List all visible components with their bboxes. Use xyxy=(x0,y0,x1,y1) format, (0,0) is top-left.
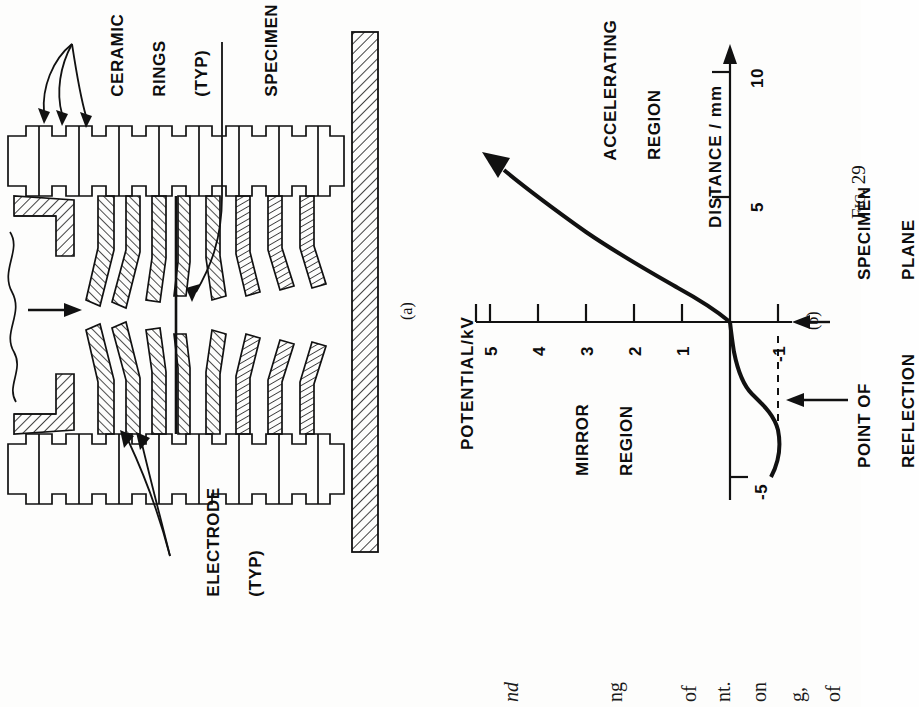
page-text-fragment-on: on xyxy=(748,682,771,702)
ceramic-ring-stack-bottom xyxy=(8,434,344,504)
page-text-fragment-nd: nd xyxy=(500,682,523,702)
point-of-reflection-line2: REFLECTION xyxy=(899,353,918,468)
beam-direction-arrow xyxy=(28,303,82,317)
axis-title-distance: DISTANCE / mm xyxy=(706,85,726,228)
specimen-leader-head xyxy=(186,284,200,302)
panel-b-potential-plot: POTENTIAL/kV 5 4 3 2 1 -1 DISTANCE / mm … xyxy=(400,0,861,620)
beam-entrance-break xyxy=(8,216,56,414)
label-specimen: SPECIMEN xyxy=(240,4,303,128)
page-text-fragment-g: g, xyxy=(786,687,809,702)
potential-axis xyxy=(476,304,792,322)
figure-caption-rest: . 29 xyxy=(848,165,869,194)
curve-arrowhead xyxy=(482,152,510,178)
accelerating-region-line1: ACCELERATING xyxy=(601,20,620,161)
figure-caption-prefix: F xyxy=(848,208,869,219)
page-text-fragment-nt: nt. xyxy=(712,681,735,702)
xtick-label-10: 10 xyxy=(748,68,768,88)
page-text-fragment-of-2: of xyxy=(822,685,845,702)
mirror-region-line2: REGION xyxy=(617,405,636,476)
point-of-reflection-line1: POINT OF xyxy=(855,383,874,468)
ceramic-rings-line3: (TYP) xyxy=(192,50,211,97)
electrode-bank-lower xyxy=(14,322,326,434)
ceramic-rings-line2: RINGS xyxy=(150,40,169,96)
distance-axis-arrowhead xyxy=(723,44,737,64)
point-of-reflection-arrowhead xyxy=(786,393,804,407)
mirror-region-line1: MIRROR xyxy=(573,404,592,477)
specimen-plane-line2: PLANE xyxy=(899,219,918,280)
specimen-text: SPECIMEN xyxy=(262,4,281,97)
ytick-label-1: 1 xyxy=(674,346,694,356)
electrode-line2: (TYP) xyxy=(246,550,265,597)
xtick-label-5: 5 xyxy=(748,202,768,212)
page-text-fragment-of-1: of xyxy=(678,685,701,702)
ytick-label-minus1: -1 xyxy=(770,346,790,362)
electrode-leader xyxy=(128,440,170,556)
annotation-point-of-reflection: POINT OF REFLECTION xyxy=(832,353,919,500)
ytick-label-4: 4 xyxy=(530,346,550,356)
label-electrode: ELECTRODE (TYP) xyxy=(182,487,287,628)
accelerating-region-line2: REGION xyxy=(645,89,664,160)
annotation-mirror-region: MIRROR REGION xyxy=(550,404,660,509)
electrode-line1: ELECTRODE xyxy=(204,487,223,596)
ceramic-ring-stack-top xyxy=(8,126,344,196)
ytick-label-3: 3 xyxy=(578,346,598,356)
page-text-fragment-ng: ng xyxy=(604,682,627,702)
electrode-bank-upper xyxy=(14,196,326,308)
figure-caption: FIG. 29 xyxy=(826,165,892,238)
ytick-label-2: 2 xyxy=(626,346,646,356)
axis-title-potential: POTENTIAL/kV xyxy=(458,316,478,450)
curve-accelerating-region xyxy=(504,170,730,322)
ceramic-rings-leader xyxy=(44,44,86,116)
annotation-accelerating-region: ACCELERATING REGION xyxy=(578,20,688,192)
ceramic-rings-line1: CERAMIC xyxy=(108,14,127,97)
panel-a-apparatus-diagram: CERAMIC RINGS (TYP) SPECIMEN ELECTRODE (… xyxy=(0,0,400,620)
xtick-label-minus5: -5 xyxy=(752,484,772,500)
panel-b-caption: (b) xyxy=(804,311,822,330)
ytick-label-5: 5 xyxy=(482,346,502,356)
mounting-wall-hatched xyxy=(352,32,378,552)
label-ceramic-rings: CERAMIC RINGS (TYP) xyxy=(86,14,233,128)
figure-caption-smallcaps: IG xyxy=(853,194,868,209)
